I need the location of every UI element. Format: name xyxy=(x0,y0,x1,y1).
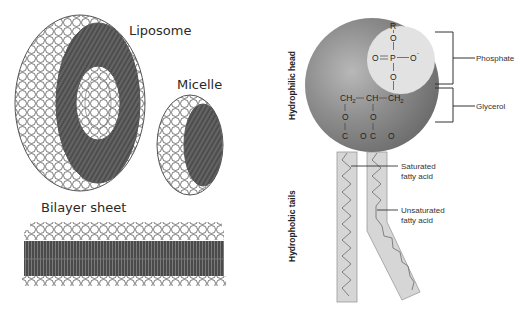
chem-ch: CH xyxy=(366,93,378,103)
liposome-illustration xyxy=(15,15,145,191)
chem-o-c: O xyxy=(360,131,367,141)
saturated-label-line1: Saturated xyxy=(401,162,436,171)
chem-c-a: C xyxy=(342,131,348,141)
hydrophilic-head-label: Hydrophilic head xyxy=(287,51,297,120)
micelle-illustration xyxy=(157,95,223,195)
chem-o-double: O xyxy=(372,53,379,63)
unsaturated-label-line2: fatty acid xyxy=(401,216,433,225)
chem-o-top: O xyxy=(390,33,397,43)
glycerol-label: Glycerol xyxy=(476,102,506,111)
bilayer-sheet-illustration xyxy=(22,222,226,286)
unsaturated-label-line1: Unsaturated xyxy=(401,206,445,215)
hydrophobic-tails-label: Hydrophobic tails xyxy=(287,190,297,262)
glycerol-bracket xyxy=(435,84,475,122)
chem-c-b: C xyxy=(370,131,376,141)
chem-o-minus: O xyxy=(410,53,417,63)
chem-r: R xyxy=(390,21,396,31)
liposome-label: Liposome xyxy=(129,23,191,38)
saturated-label-line2: fatty acid xyxy=(401,172,433,181)
saturated-tail xyxy=(337,152,357,302)
membrane-diagram: Liposome Micelle Bilayer sheet Hydrophil… xyxy=(0,0,531,315)
bilayer-sheet-label: Bilayer sheet xyxy=(41,200,126,215)
chem-p: P xyxy=(390,53,396,63)
phosphate-label: Phosphate xyxy=(476,54,515,63)
chem-o-d: O xyxy=(388,131,395,141)
micelle-label: Micelle xyxy=(177,77,222,92)
chem-o-a: O xyxy=(342,112,349,122)
phosphate-bracket xyxy=(435,32,475,84)
chem-o-b: O xyxy=(370,112,377,122)
chem-o-bottom: O xyxy=(390,72,397,82)
chem-minus-sign: - xyxy=(417,50,419,56)
